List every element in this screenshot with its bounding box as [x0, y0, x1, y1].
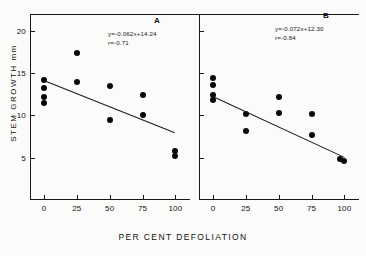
x-axis-title: PER CENT DEFOLIATION: [0, 232, 366, 242]
x-tick-label: 50: [274, 204, 283, 213]
data-point: [140, 112, 146, 118]
y-tick: [199, 31, 204, 32]
data-point: [210, 75, 216, 81]
y-tick-label: 10: [17, 111, 26, 120]
data-point: [74, 79, 80, 85]
x-tick: [143, 195, 144, 200]
data-point: [309, 111, 315, 117]
data-point: [276, 94, 282, 100]
y-tick: [30, 31, 35, 32]
data-point: [276, 110, 282, 116]
x-tick: [44, 195, 45, 200]
panel-a-y-axis: [30, 14, 31, 200]
x-tick-label: 75: [307, 204, 316, 213]
panel-a-equation: y=-0.062x+14.24 r=-0.71: [108, 30, 157, 48]
y-tick: [199, 73, 204, 74]
data-point: [309, 132, 315, 138]
data-point: [172, 153, 178, 159]
data-point: [210, 82, 216, 88]
x-tick-label: 25: [241, 204, 250, 213]
data-point: [107, 83, 113, 89]
x-tick: [77, 195, 78, 200]
x-tick: [344, 195, 345, 200]
data-point: [243, 128, 249, 134]
data-point: [41, 85, 47, 91]
y-tick: [30, 115, 35, 116]
x-tick: [246, 195, 247, 200]
y-tick-label: 5: [21, 153, 26, 162]
x-tick-label: 100: [168, 204, 182, 213]
data-point: [41, 100, 47, 106]
x-tick: [175, 195, 176, 200]
data-point: [107, 117, 113, 123]
y-tick-label: 15: [17, 69, 26, 78]
panel-b: y=-0.072x+12.30 r=-0.84 B 0255075100: [199, 14, 359, 200]
data-point: [341, 158, 347, 164]
y-tick: [199, 158, 204, 159]
panel-b-tag: B: [323, 11, 329, 20]
x-tick-label: 0: [42, 204, 47, 213]
x-tick-label: 0: [211, 204, 216, 213]
x-tick-label: 100: [337, 204, 351, 213]
panel-a: y=-0.062x+14.24 r=-0.71 A 51015200255075…: [30, 14, 190, 200]
y-tick-label: 20: [17, 26, 26, 35]
x-tick-label: 75: [138, 204, 147, 213]
x-tick-label: 50: [105, 204, 114, 213]
y-axis-title: STEM GROWTH mm: [9, 18, 18, 168]
y-tick: [199, 115, 204, 116]
x-tick: [312, 195, 313, 200]
panel-b-equation: y=-0.072x+12.30 r=-0.84: [275, 25, 324, 43]
x-tick: [279, 195, 280, 200]
x-tick: [110, 195, 111, 200]
data-point: [140, 92, 146, 98]
panel-a-tag: A: [154, 16, 160, 25]
y-tick: [30, 158, 35, 159]
data-point: [74, 50, 80, 56]
panel-b-y-axis: [199, 14, 200, 200]
y-tick: [30, 73, 35, 74]
figure-container: y=-0.062x+14.24 r=-0.71 A 51015200255075…: [0, 0, 366, 256]
regression-line: [213, 96, 345, 158]
x-tick: [213, 195, 214, 200]
x-tick-label: 25: [72, 204, 81, 213]
